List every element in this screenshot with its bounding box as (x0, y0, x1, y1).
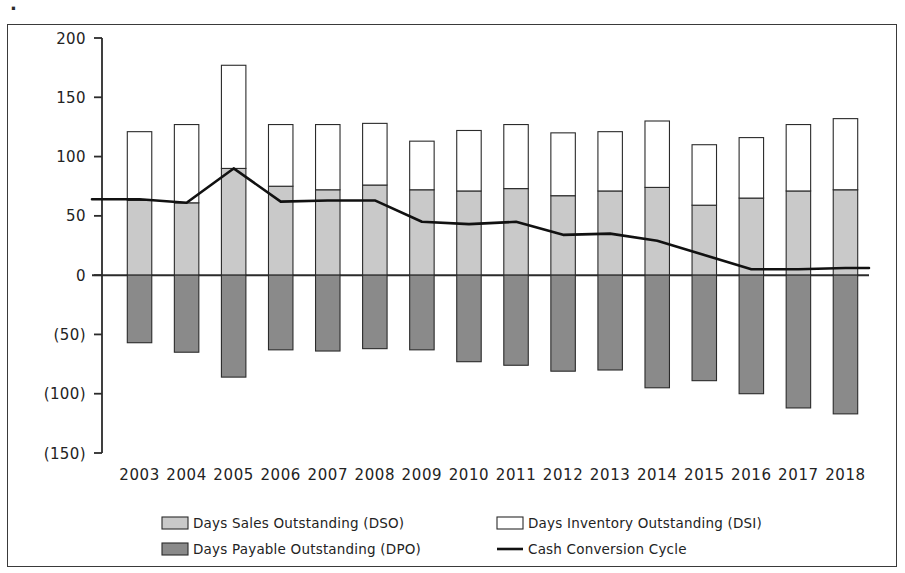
bar-segment-dpo (504, 275, 528, 365)
bar-segment-dpo (127, 275, 151, 343)
x-axis-tick-label: 2012 (543, 466, 584, 484)
bar-segment-dso (833, 190, 857, 275)
bar-segment-dso (316, 190, 340, 275)
legend-label: Days Sales Outstanding (DSO) (193, 515, 404, 531)
y-axis-tick-label: 50 (66, 207, 86, 225)
bar-segment-dpo (786, 275, 810, 408)
x-axis-tick-label: 2013 (590, 466, 631, 484)
x-axis-tick-label: 2016 (731, 466, 772, 484)
bar-segment-dso (174, 203, 198, 275)
x-axis-tick-label: 2011 (496, 466, 537, 484)
y-axis-tick-label: (150) (44, 445, 86, 463)
bar-segment-dsi (598, 132, 622, 191)
bar-segment-dpo (645, 275, 669, 388)
x-axis-tick-label: 2005 (213, 466, 254, 484)
bar-segment-dpo (833, 275, 857, 414)
legend-label: Days Inventory Outstanding (DSI) (528, 515, 762, 531)
bar-segment-dpo (457, 275, 481, 362)
legend-label: Cash Conversion Cycle (528, 541, 687, 557)
bar-segment-dsi (692, 145, 716, 205)
x-axis-tick-label: 2009 (402, 466, 443, 484)
bar-segment-dso (786, 191, 810, 275)
x-axis-tick-label: 2004 (166, 466, 207, 484)
y-axis-tick-label: 150 (56, 89, 86, 107)
bar-segment-dsi (504, 125, 528, 189)
bar-segment-dso (410, 190, 434, 275)
legend-swatch (162, 543, 188, 555)
x-axis-tick-label: 2018 (825, 466, 866, 484)
bar-segment-dso (692, 205, 716, 275)
x-axis-tick-label: 2015 (684, 466, 725, 484)
x-axis-tick-label: 2010 (449, 466, 490, 484)
bar-segment-dsi (410, 141, 434, 190)
x-axis-tick-label: 2017 (778, 466, 819, 484)
bar-segment-dso (127, 200, 151, 275)
bar-segment-dpo (268, 275, 292, 350)
bar-segment-dsi (127, 132, 151, 201)
bar-segment-dpo (692, 275, 716, 381)
bar-segment-dpo (410, 275, 434, 350)
bar-segment-dsi (363, 123, 387, 185)
x-axis-tick-label: 2003 (119, 466, 160, 484)
bar-segment-dpo (174, 275, 198, 352)
bar-segment-dso (645, 187, 669, 275)
y-axis-tick-label: 100 (56, 148, 86, 166)
legend-swatch (497, 517, 523, 529)
x-axis-tick-label: 2007 (307, 466, 348, 484)
bar-segment-dso (363, 185, 387, 275)
bar-segment-dpo (739, 275, 763, 394)
bar-segment-dsi (457, 130, 481, 190)
bar-segment-dsi (174, 125, 198, 203)
legend-swatch (162, 517, 188, 529)
y-axis-tick-label: (100) (44, 385, 86, 403)
bar-segment-dsi (551, 133, 575, 196)
bar-segment-dsi (786, 125, 810, 191)
y-axis-tick-label: 200 (56, 30, 86, 48)
legend-item: Days Sales Outstanding (DSO) (162, 515, 404, 531)
bar-segment-dsi (739, 138, 763, 198)
scan-artifact-mark: · (10, 0, 28, 20)
bar-segment-dso (268, 186, 292, 275)
bar-segment-dpo (598, 275, 622, 370)
bar-segment-dpo (551, 275, 575, 371)
bar-segment-dso (504, 189, 528, 276)
cash-conversion-cycle-chart: 200150100500(50)(100)(150)20032004200520… (7, 24, 897, 567)
bar-segment-dpo (316, 275, 340, 351)
y-axis-tick-label: 0 (76, 267, 86, 285)
x-axis-tick-label: 2008 (355, 466, 396, 484)
chart-container: · 200150100500(50)(100)(150)200320042005… (0, 0, 905, 573)
legend-label: Days Payable Outstanding (DPO) (193, 541, 421, 557)
bar-segment-dsi (316, 125, 340, 190)
bar-segment-dso (739, 198, 763, 275)
bar-segment-dpo (221, 275, 245, 377)
legend-item: Cash Conversion Cycle (497, 541, 687, 557)
x-axis-tick-label: 2006 (260, 466, 301, 484)
legend-item: Days Payable Outstanding (DPO) (162, 541, 421, 557)
bar-segment-dso (457, 191, 481, 275)
bar-segment-dsi (268, 125, 292, 187)
bar-segment-dsi (221, 65, 245, 168)
bar-segment-dso (221, 168, 245, 275)
x-axis-tick-label: 2014 (637, 466, 678, 484)
y-axis-tick-label: (50) (54, 326, 86, 344)
bar-segment-dpo (363, 275, 387, 349)
bar-segment-dsi (645, 121, 669, 187)
legend-item: Days Inventory Outstanding (DSI) (497, 515, 762, 531)
bar-segment-dsi (833, 119, 857, 190)
